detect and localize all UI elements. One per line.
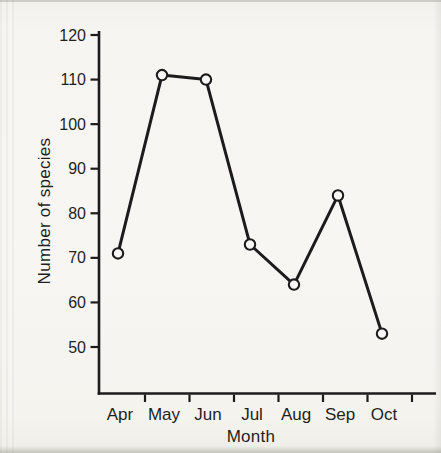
y-tick-label: 90 xyxy=(68,160,86,177)
x-category-label-sep: Sep xyxy=(325,405,355,424)
y-tick-label: 110 xyxy=(60,71,86,88)
x-category-label-oct: Oct xyxy=(371,405,398,424)
y-tick-label: 100 xyxy=(59,116,86,133)
data-point-may xyxy=(157,70,167,80)
data-point-sep xyxy=(333,190,343,200)
data-line xyxy=(118,75,382,334)
data-point-apr xyxy=(113,248,123,258)
y-tick-label: 120 xyxy=(59,27,86,44)
data-point-aug xyxy=(289,279,299,289)
x-category-label-jun: Jun xyxy=(194,405,221,424)
y-tick-label: 80 xyxy=(68,205,86,222)
y-axis-label: Number of species xyxy=(35,138,55,285)
data-point-oct xyxy=(377,328,387,338)
x-category-label-aug: Aug xyxy=(281,405,311,424)
scanned-figure-page: 5060708090100110120AprMayJunJulAugSepOct… xyxy=(0,0,441,453)
species-line-chart: 5060708090100110120AprMayJunJulAugSepOct xyxy=(0,0,441,453)
x-category-label-jul: Jul xyxy=(241,405,263,424)
x-axis-label: Month xyxy=(227,427,276,447)
data-point-jun xyxy=(201,74,211,84)
x-category-label-apr: Apr xyxy=(107,405,134,424)
y-tick-label: 50 xyxy=(68,339,86,356)
x-category-label-may: May xyxy=(148,405,181,424)
y-tick-label: 60 xyxy=(68,294,86,311)
y-tick-label: 70 xyxy=(68,249,86,266)
data-point-jul xyxy=(245,239,255,249)
